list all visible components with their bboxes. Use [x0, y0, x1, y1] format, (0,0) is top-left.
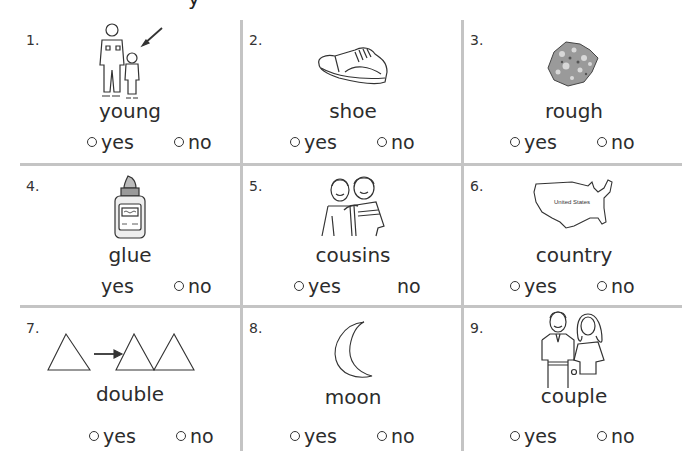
map-label: United States — [554, 199, 590, 205]
option-label: no — [190, 425, 214, 447]
vocabulary-word: cousins — [243, 243, 463, 267]
question-cell-4: 4. glue yes no — [20, 166, 240, 305]
option-label: no — [611, 425, 635, 447]
answer-yes-option[interactable]: yes — [89, 425, 136, 447]
answer-no-option[interactable]: no — [377, 131, 415, 153]
vocabulary-word: moon — [243, 385, 463, 409]
radio-circle-icon[interactable] — [597, 281, 607, 291]
question-cell-3: 3. rough yes no — [464, 20, 684, 163]
radio-circle-icon[interactable] — [89, 431, 99, 441]
option-label: yes — [524, 425, 557, 447]
double-triangles-picture-icon — [46, 332, 206, 374]
question-cell-7: 7. double yes no — [20, 308, 240, 451]
answer-no-option[interactable]: no — [597, 131, 635, 153]
radio-circle-icon[interactable] — [176, 431, 186, 441]
answer-no-option[interactable]: no — [597, 425, 635, 447]
shoe-picture-icon — [243, 44, 463, 88]
rock-picture-icon — [464, 38, 684, 88]
answer-yes-option[interactable]: yes — [294, 275, 341, 297]
question-number: 7. — [26, 320, 39, 336]
option-label: no — [611, 131, 635, 153]
radio-circle-icon[interactable] — [377, 431, 387, 441]
answer-yes-option[interactable]: yes — [290, 425, 337, 447]
radio-circle-icon[interactable] — [174, 281, 184, 291]
answer-no-option[interactable]: no — [597, 275, 635, 297]
crescent-moon-picture-icon — [243, 320, 463, 382]
answer-no-option[interactable]: no — [383, 275, 421, 297]
option-label: no — [611, 275, 635, 297]
radio-circle-icon[interactable] — [294, 281, 304, 291]
young-picture-icon — [20, 20, 240, 100]
option-label: no — [391, 425, 415, 447]
option-label: yes — [304, 425, 337, 447]
option-label: no — [188, 275, 212, 297]
vocabulary-word: young — [20, 99, 240, 123]
answer-yes-option[interactable]: yes — [87, 131, 134, 153]
answer-no-option[interactable]: no — [176, 425, 214, 447]
option-label: yes — [524, 275, 557, 297]
radio-circle-icon[interactable] — [290, 431, 300, 441]
vocabulary-word: shoe — [243, 99, 463, 123]
radio-circle-icon[interactable] — [377, 137, 387, 147]
us-map-picture-icon: United States — [464, 178, 684, 232]
question-cell-5: 5. cousins yes no — [243, 166, 463, 305]
question-cell-6: 6. United States country yes no — [464, 166, 684, 305]
vocabulary-word: couple — [464, 384, 684, 408]
radio-circle-icon[interactable] — [510, 137, 520, 147]
couple-picture-icon — [464, 310, 684, 388]
radio-circle-icon[interactable] — [597, 137, 607, 147]
radio-circle-icon[interactable] — [510, 431, 520, 441]
option-label: yes — [103, 425, 136, 447]
glue-bottle-picture-icon — [20, 174, 240, 240]
cutoff-heading-fragment: y — [188, 0, 200, 10]
answer-no-option[interactable]: no — [174, 131, 212, 153]
vocabulary-word: rough — [464, 99, 684, 123]
answer-yes-option[interactable]: yes — [87, 275, 134, 297]
answer-yes-option[interactable]: yes — [290, 131, 337, 153]
vocabulary-word: country — [464, 243, 684, 267]
option-label: yes — [524, 131, 557, 153]
radio-circle-icon[interactable] — [290, 137, 300, 147]
question-cell-1: 1. young yes no — [20, 20, 240, 163]
answer-yes-option[interactable]: yes — [510, 131, 557, 153]
option-label: yes — [101, 275, 134, 297]
answer-yes-option[interactable]: yes — [510, 425, 557, 447]
vocabulary-word: double — [20, 382, 240, 406]
option-label: no — [188, 131, 212, 153]
question-cell-2: 2. shoe yes no — [243, 20, 463, 163]
question-cell-9: 9. couple yes no — [464, 308, 684, 451]
cousins-picture-icon — [243, 176, 463, 238]
answer-yes-option[interactable]: yes — [510, 275, 557, 297]
option-label: yes — [308, 275, 341, 297]
answer-no-option[interactable]: no — [377, 425, 415, 447]
option-label: yes — [101, 131, 134, 153]
radio-circle-icon[interactable] — [87, 137, 97, 147]
answer-no-option[interactable]: no — [174, 275, 212, 297]
question-cell-8: 8. moon yes no — [243, 308, 463, 451]
radio-circle-icon[interactable] — [597, 431, 607, 441]
option-label: no — [391, 131, 415, 153]
option-label: no — [397, 275, 421, 297]
radio-circle-icon[interactable] — [510, 281, 520, 291]
vocabulary-word: glue — [20, 243, 240, 267]
radio-circle-icon[interactable] — [174, 137, 184, 147]
option-label: yes — [304, 131, 337, 153]
